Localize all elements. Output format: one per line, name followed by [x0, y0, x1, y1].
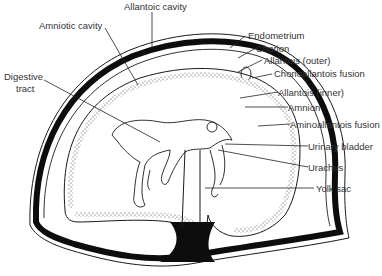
label-chorion: Chorion	[256, 43, 289, 54]
embryo	[112, 120, 232, 207]
label-allantois-outer: Allantois (outer)	[264, 55, 331, 66]
label-allantoic-cavity: Allantoic cavity	[124, 1, 187, 12]
label-yolk-sac: Yolk sac	[316, 183, 351, 194]
fetal-membranes-diagram: Allantoic cavity Amniotic cavity Digesti…	[0, 0, 382, 276]
label-chorioallantois-fusion: Chorioallantois fusion	[274, 68, 365, 79]
label-amnion: Amnion	[288, 102, 320, 113]
label-urachus: Urachus	[308, 162, 343, 173]
label-allantois-inner: Allantois (inner)	[278, 87, 344, 98]
label-amniotic-cavity: Amniotic cavity	[39, 20, 102, 31]
umbilical-cord	[182, 150, 200, 228]
label-urinary-bladder: Urinary bladder	[308, 141, 373, 152]
umbilical-base	[160, 222, 215, 262]
label-digestive-tract-line2: tract	[16, 83, 34, 94]
diagram-drawing	[0, 0, 382, 276]
label-aminoallantois-fusion: Aminoallantois fusion	[290, 119, 380, 130]
label-digestive-tract-line1: Digestive	[4, 71, 43, 82]
label-endometrium: Endometrium	[248, 30, 305, 41]
